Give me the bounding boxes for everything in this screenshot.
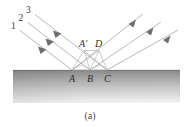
incident-ray-label-2: 2 (19, 13, 24, 23)
reflection-figure: 1 2 3 A′ D A B C (a) (0, 0, 196, 127)
incident-ray-label-3: 3 (26, 5, 31, 15)
reflected-ray-3 (107, 30, 178, 70)
point-label-c: C (104, 73, 111, 84)
point-label-a-prime: A′ (78, 38, 88, 49)
arrowhead-icon (129, 20, 137, 28)
incident-arrowheads (38, 31, 62, 55)
figure-caption: (a) (84, 110, 95, 122)
point-label-a: A (68, 73, 76, 84)
line-A-Aprime (72, 51, 84, 71)
reflecting-medium (13, 70, 180, 103)
arrowhead-icon (146, 28, 154, 36)
point-label-b: B (87, 73, 93, 84)
incident-ray-label-1: 1 (11, 21, 16, 31)
point-label-d: D (94, 38, 103, 49)
reflected-rays (72, 14, 178, 70)
figure-canvas: 1 2 3 A′ D A B C (a) (0, 0, 196, 127)
